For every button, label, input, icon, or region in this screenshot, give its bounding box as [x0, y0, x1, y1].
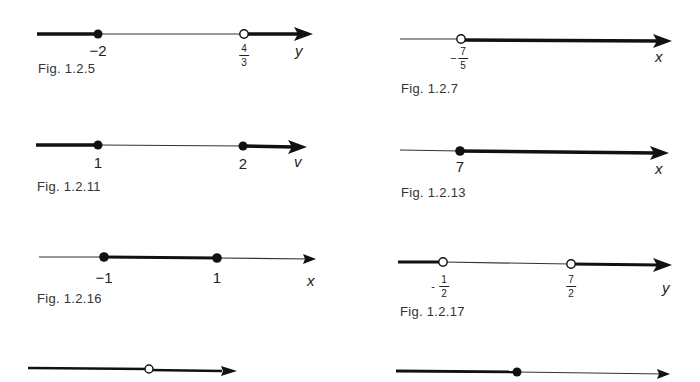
figure-caption: Fig. 1.2.11 — [37, 180, 101, 193]
axis-variable: y — [295, 43, 303, 58]
number-line-bottom-right — [396, 368, 670, 380]
closed-point — [513, 368, 522, 377]
figure-caption: Fig. 1.2.16 — [37, 292, 102, 305]
number-line-fig-1-2-16 — [39, 252, 316, 264]
closed-point — [239, 142, 248, 151]
tick-label: −2 — [89, 43, 106, 58]
figure-caption: Fig. 1.2.13 — [401, 186, 466, 199]
figure-caption: Fig. 1.2.17 — [400, 305, 465, 318]
tick-label: 1 — [213, 270, 221, 285]
closed-point — [455, 146, 465, 156]
figure-caption: Fig. 1.2.7 — [401, 82, 458, 95]
number-line-bottom-left — [28, 365, 237, 376]
number-line-fig-1-2-5 — [37, 27, 313, 41]
number-line-fig-1-2-7 — [400, 34, 672, 48]
number-line-fig-1-2-13 — [400, 146, 669, 160]
closed-point — [212, 253, 222, 263]
axis-variable: x — [655, 161, 663, 176]
open-point — [439, 258, 447, 266]
tick-label: 2 — [239, 156, 247, 171]
tick-label: −1 — [95, 270, 112, 285]
number-line-fig-1-2-11 — [36, 140, 307, 154]
tick-label-fraction: − 7 5 — [458, 47, 468, 71]
tick-label: 1 — [94, 155, 102, 170]
axis-variable: v — [294, 154, 302, 169]
axis-variable: x — [307, 273, 315, 288]
closed-point — [94, 30, 103, 39]
open-point — [240, 30, 248, 38]
axis-variable: x — [655, 49, 663, 64]
closed-point — [94, 141, 103, 150]
tick-label: 7 — [456, 159, 464, 174]
tick-label-fraction: 4 3 — [239, 44, 249, 68]
open-point — [145, 365, 153, 373]
axis-variable: y — [662, 280, 670, 295]
open-point — [457, 35, 465, 43]
tick-label-fraction: - 1 2 — [439, 275, 449, 299]
figure-caption: Fig. 1.2.5 — [38, 62, 95, 75]
closed-point — [99, 252, 109, 262]
number-line-fig-1-2-17 — [398, 258, 672, 272]
tick-label-fraction: 7 2 — [566, 275, 576, 299]
open-point — [567, 260, 575, 268]
